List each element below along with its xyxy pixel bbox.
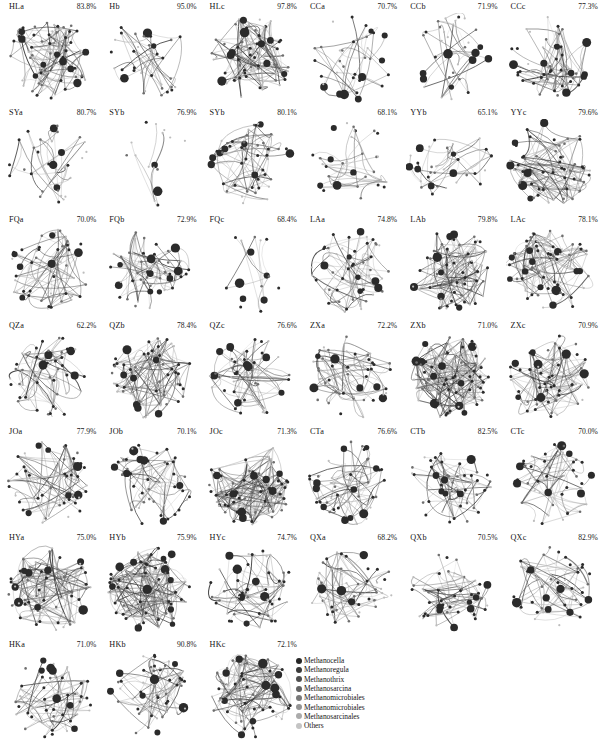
network-panel: FQb72.9%	[100, 213, 200, 319]
panel-percentage: 71.0%	[478, 321, 498, 330]
legend-dot-icon	[296, 676, 302, 682]
panel-sample-label: YYc	[510, 108, 526, 117]
network-graph	[5, 438, 95, 528]
network-panel: QXa68.2%	[301, 531, 401, 637]
panel-percentage: 76.6%	[277, 321, 297, 330]
network-panel: JOa77.9%	[0, 425, 100, 531]
panel-sample-label: CCb	[410, 2, 426, 11]
panel-sample-label: HKb	[109, 640, 126, 649]
network-panel: CCa70.7%	[301, 0, 401, 106]
network-panel: QXc82.9%	[501, 531, 601, 637]
legend-item: Methanoregula	[296, 665, 446, 674]
legend-item: Others	[296, 721, 446, 730]
panel-sample-label: LAa	[310, 215, 325, 224]
panel-sample-label: HKc	[210, 640, 226, 649]
legend-label: Methanomicrobiales	[304, 703, 365, 712]
panel-percentage: 70.1%	[177, 427, 197, 436]
network-graph	[506, 226, 596, 316]
panel-percentage: 62.2%	[77, 321, 97, 330]
network-panel: 68.1%	[301, 106, 401, 212]
panel-percentage: 82.5%	[478, 427, 498, 436]
panel-percentage: 78.4%	[177, 321, 197, 330]
panel-sample-label: ZXa	[310, 321, 325, 330]
network-graph	[406, 13, 496, 103]
network-panel: CTc70.0%	[501, 425, 601, 531]
panel-sample-label: QZb	[109, 321, 125, 330]
panel-sample-label: QXb	[410, 533, 427, 542]
network-graph	[5, 226, 95, 316]
legend-label: Others	[304, 721, 324, 730]
panel-percentage: 71.3%	[277, 427, 297, 436]
panel-sample-label: QXc	[510, 533, 526, 542]
network-graph	[206, 438, 296, 528]
panel-percentage: 90.8%	[177, 640, 197, 649]
network-panel: SYb80.1%	[201, 106, 301, 212]
panel-sample-label: JOb	[109, 427, 123, 436]
network-graph	[406, 119, 496, 209]
panel-percentage: 70.0%	[77, 215, 97, 224]
network-graph	[105, 226, 195, 316]
panel-sample-label: HYc	[210, 533, 226, 542]
network-panel: SYb76.9%	[100, 106, 200, 212]
network-graph	[5, 544, 95, 634]
panel-percentage: 71.9%	[478, 2, 498, 11]
panel-percentage: 79.8%	[478, 215, 498, 224]
legend-dot-icon	[296, 658, 302, 664]
legend-label: Methanosarcinales	[304, 712, 359, 721]
network-graph	[506, 438, 596, 528]
network-graph	[206, 13, 296, 103]
panel-percentage: 75.9%	[177, 533, 197, 542]
panel-sample-label: SYb	[109, 108, 124, 117]
panel-sample-label: JOa	[9, 427, 22, 436]
panel-percentage: 74.7%	[277, 533, 297, 542]
legend-item: Methanosarcinales	[296, 712, 446, 721]
network-graph	[105, 544, 195, 634]
network-graph	[105, 332, 195, 422]
network-graph	[506, 332, 596, 422]
network-panel: CCb71.9%	[401, 0, 501, 106]
legend-dot-icon	[296, 695, 302, 701]
panel-sample-label: JOc	[210, 427, 223, 436]
panel-sample-label: LAb	[410, 215, 426, 224]
panel-sample-label: ZXc	[510, 321, 525, 330]
panel-percentage: 77.3%	[578, 2, 598, 11]
panel-percentage: 80.7%	[77, 108, 97, 117]
taxonomy-legend: MethanocellaMethanoregulaMethanothrixMet…	[296, 656, 446, 730]
network-panel: QZa62.2%	[0, 319, 100, 425]
legend-label: Methanoregula	[304, 665, 349, 674]
panel-sample-label: SYa	[9, 108, 23, 117]
legend-item: Methanomicrobiales	[296, 702, 446, 711]
network-graph	[5, 651, 95, 741]
network-panel: HYc74.7%	[201, 531, 301, 637]
panel-percentage: 65.1%	[478, 108, 498, 117]
network-panel: Hb95.0%	[100, 0, 200, 106]
network-panel: HLc97.8%	[201, 0, 301, 106]
panel-percentage: 70.5%	[478, 533, 498, 542]
network-graph	[406, 438, 496, 528]
legend-item: Methanomicrobiales	[296, 693, 446, 702]
panel-percentage: 78.1%	[578, 215, 598, 224]
legend-dot-icon	[296, 667, 302, 673]
panel-sample-label: LAc	[510, 215, 525, 224]
panel-sample-label: HKa	[9, 640, 25, 649]
network-panel: QZb78.4%	[100, 319, 200, 425]
panel-percentage: 97.8%	[277, 2, 297, 11]
panel-percentage: 70.7%	[378, 2, 398, 11]
network-panel: QXb70.5%	[401, 531, 501, 637]
panel-percentage: 70.0%	[578, 427, 598, 436]
panel-sample-label: CTb	[410, 427, 425, 436]
network-graph	[406, 332, 496, 422]
legend-dot-icon	[296, 723, 302, 729]
panel-percentage: 72.9%	[177, 215, 197, 224]
panel-sample-label: QZc	[210, 321, 225, 330]
network-graph	[206, 544, 296, 634]
legend-dot-icon	[296, 686, 302, 692]
panel-sample-label: HYa	[9, 533, 24, 542]
network-panel: HKc72.1%	[201, 638, 301, 744]
network-panel: YYc79.6%	[501, 106, 601, 212]
network-grid-figure: HLa83.8%Hb95.0%HLc97.8%CCa70.7%CCb71.9%C…	[0, 0, 602, 744]
network-panel: HYb75.9%	[100, 531, 200, 637]
panel-percentage: 80.1%	[277, 108, 297, 117]
network-graph	[306, 119, 396, 209]
panel-percentage: 68.1%	[378, 108, 398, 117]
